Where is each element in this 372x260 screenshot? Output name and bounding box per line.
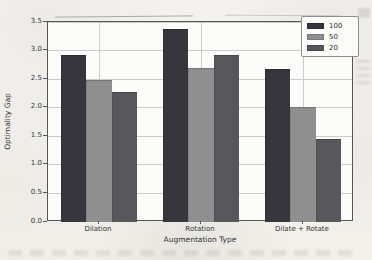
y-tick-label: 0.0 bbox=[26, 218, 42, 225]
y-tick-mark bbox=[43, 21, 47, 22]
y-tick-mark bbox=[43, 221, 47, 222]
x-tick-label: Rotation bbox=[155, 225, 245, 233]
scan-bleedthrough-text bbox=[8, 250, 358, 256]
legend-swatch bbox=[307, 23, 324, 29]
y-tick-label: 1.5 bbox=[26, 132, 42, 139]
x-tick-label: Dilation bbox=[53, 225, 143, 233]
legend-label: 20 bbox=[329, 44, 338, 52]
bar-20-dilate-rotate bbox=[316, 139, 342, 222]
y-tick-mark bbox=[43, 78, 47, 79]
legend-label: 50 bbox=[329, 33, 338, 41]
y-tick-mark bbox=[43, 135, 47, 136]
legend-entry: 20 bbox=[307, 42, 354, 53]
y-tick-label: 3.5 bbox=[26, 18, 42, 25]
legend-swatch bbox=[307, 34, 324, 40]
y-tick-mark bbox=[43, 49, 47, 50]
x-tick-mark bbox=[98, 221, 99, 224]
bar-100-rotation bbox=[163, 29, 189, 222]
bar-20-rotation bbox=[214, 55, 240, 222]
y-tick-label: 2.0 bbox=[26, 103, 42, 110]
bar-50-dilate-rotate bbox=[290, 107, 316, 222]
x-axis-title: Augmentation Type bbox=[164, 235, 237, 244]
scan-bleedthrough-mark bbox=[358, 8, 370, 18]
legend: 1005020 bbox=[301, 16, 359, 57]
bar-100-dilate-rotate bbox=[265, 69, 291, 222]
bar-20-dilation bbox=[112, 92, 138, 222]
y-tick-mark bbox=[43, 106, 47, 107]
y-tick-label: 2.5 bbox=[26, 75, 42, 82]
y-tick-mark bbox=[43, 163, 47, 164]
y-tick-mark bbox=[43, 192, 47, 193]
y-axis-title: Optimality Gap bbox=[3, 77, 12, 167]
legend-swatch bbox=[307, 45, 324, 51]
bar-50-dilation bbox=[86, 80, 112, 222]
scanned-bar-chart-figure: 0.00.51.01.52.02.53.03.5 DilationRotatio… bbox=[0, 0, 372, 260]
legend-entry: 50 bbox=[307, 31, 354, 42]
y-tick-label: 3.0 bbox=[26, 46, 42, 53]
legend-entry: 100 bbox=[307, 20, 354, 31]
bar-100-dilation bbox=[61, 55, 87, 222]
x-tick-mark bbox=[302, 221, 303, 224]
legend-label: 100 bbox=[329, 22, 342, 30]
bar-50-rotation bbox=[188, 68, 214, 222]
scan-artifact-line bbox=[55, 15, 193, 18]
y-tick-label: 1.0 bbox=[26, 160, 42, 167]
y-tick-label: 0.5 bbox=[26, 189, 42, 196]
x-tick-label: Dilate + Rotate bbox=[257, 225, 347, 233]
x-tick-mark bbox=[200, 221, 201, 224]
scan-bleedthrough-text bbox=[356, 58, 370, 84]
